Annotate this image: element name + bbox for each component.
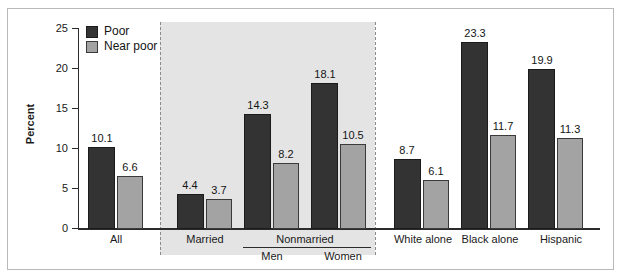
bar-black-alone-near-poor	[490, 135, 516, 229]
bar-nonmarried-men-near-poor	[273, 163, 299, 229]
bar-value-black-alone-near-poor: 11.7	[484, 121, 522, 132]
y-tick-5	[72, 188, 78, 189]
bar-married-poor	[177, 194, 204, 229]
y-tick-label-20: 20	[42, 63, 68, 74]
bar-value-hispanic-poor: 19.9	[523, 55, 561, 66]
y-axis-title: Percent	[24, 89, 36, 159]
bar-value-nonmarried-women-poor: 18.1	[306, 69, 344, 80]
bar-value-nonmarried-men-poor: 14.3	[239, 100, 277, 111]
plot-area: 25 20 15 10 5 0 Percent 10.1 6.6 All 4.4…	[0, 0, 629, 279]
bar-nonmarried-men-poor	[244, 114, 271, 229]
bar-value-white-alone-poor: 8.7	[389, 145, 425, 156]
legend-swatch-near-poor-icon	[86, 41, 98, 53]
bar-white-alone-near-poor	[423, 180, 449, 229]
x-label-all: All	[95, 233, 137, 245]
bar-value-nonmarried-women-near-poor: 10.5	[334, 130, 372, 141]
shaded-region-left-edge	[160, 22, 161, 255]
x-label-married: Married	[177, 233, 233, 245]
y-tick-25	[72, 28, 78, 29]
bar-hispanic-poor	[528, 69, 555, 229]
bar-value-married-near-poor: 3.7	[201, 185, 237, 196]
y-axis-line	[78, 28, 79, 229]
legend-swatch-poor-icon	[86, 26, 98, 38]
x-label-nonmarried: Nonmarried	[251, 233, 359, 245]
y-tick-label-5: 5	[42, 183, 68, 194]
y-tick-label-0: 0	[42, 223, 68, 234]
x-axis-line	[78, 228, 600, 230]
bar-value-white-alone-near-poor: 6.1	[418, 166, 454, 177]
nonmarried-underline	[243, 247, 371, 248]
bar-value-hispanic-near-poor: 11.3	[551, 124, 589, 135]
y-tick-label-25: 25	[42, 23, 68, 34]
bar-nonmarried-women-near-poor	[340, 144, 366, 229]
bar-hispanic-near-poor	[557, 138, 583, 229]
y-tick-0	[72, 228, 78, 229]
legend-item-near-poor: Near poor	[86, 39, 157, 54]
bar-value-black-alone-poor: 23.3	[456, 28, 494, 39]
legend: Poor Near poor	[86, 24, 157, 54]
bar-value-all-poor: 10.1	[84, 133, 120, 144]
bar-value-all-near-poor: 6.6	[112, 162, 148, 173]
shaded-region-right-edge	[375, 22, 376, 255]
bar-all-near-poor	[117, 176, 143, 229]
bar-black-alone-poor	[461, 42, 488, 229]
x-label-men: Men	[251, 250, 293, 262]
y-tick-label-10: 10	[42, 143, 68, 154]
y-tick-10	[72, 148, 78, 149]
bar-white-alone-poor	[394, 159, 421, 229]
x-label-hispanic: Hispanic	[530, 233, 592, 245]
y-tick-15	[72, 108, 78, 109]
y-tick-20	[72, 68, 78, 69]
x-label-white-alone: White alone	[388, 233, 458, 245]
x-label-women: Women	[316, 250, 370, 262]
bar-married-near-poor	[206, 199, 232, 229]
y-tick-label-15: 15	[42, 103, 68, 114]
bar-nonmarried-women-poor	[311, 83, 338, 229]
bar-all-poor	[88, 147, 115, 229]
bar-chart-figure: 25 20 15 10 5 0 Percent 10.1 6.6 All 4.4…	[0, 0, 629, 279]
legend-label-near-poor: Near poor	[104, 40, 157, 53]
legend-item-poor: Poor	[86, 24, 157, 39]
legend-label-poor: Poor	[104, 25, 129, 38]
x-label-black-alone: Black alone	[455, 233, 525, 245]
bar-value-nonmarried-men-near-poor: 8.2	[268, 149, 304, 160]
